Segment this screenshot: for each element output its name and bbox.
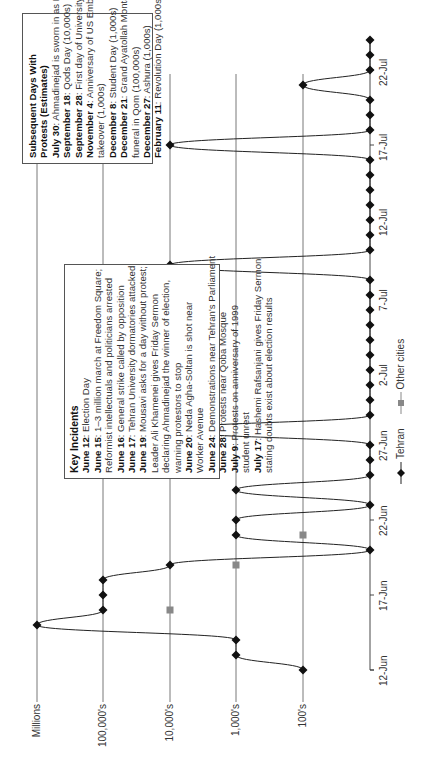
- key-incident-text: : Election Day: [80, 378, 91, 437]
- key-incidents-title: Key Incidents: [69, 270, 80, 473]
- tehran-data-point: [232, 486, 241, 495]
- key-incident-date: July 9: [229, 446, 240, 473]
- tehran-data-point: [366, 156, 375, 165]
- key-incident-date: June 20: [183, 437, 194, 473]
- key-incident-line: June 15: 1–3 million march at Freedom Sq…: [92, 270, 103, 473]
- legend-label-tehran: Tehran: [395, 428, 406, 459]
- other-cities-data-point: [300, 532, 307, 539]
- tehran-data-point: [366, 246, 375, 255]
- x-label-17-jul: 17-Jul: [378, 134, 389, 161]
- key-incident-line: June 16: General strike called by opposi…: [115, 270, 126, 473]
- x-label-7-jul: 7-Jul: [378, 289, 389, 311]
- tehran-data-point: [366, 276, 375, 285]
- key-incident-text: Worker Avenue: [194, 408, 205, 473]
- key-incident-date: June 28: [217, 437, 228, 473]
- other-cities-data-point: [167, 607, 174, 614]
- key-incident-text: : 1–3 million march at Freedom Square;: [92, 269, 103, 438]
- subsequent-day-text: funeral in Qom (100,000s): [130, 47, 141, 158]
- tehran-data-point: [299, 81, 308, 90]
- tehran-data-point: [232, 516, 241, 525]
- key-incidents-box: Key Incidents June 12: Election DayJune …: [64, 264, 220, 479]
- tehran-data-point: [366, 456, 375, 465]
- key-incident-text: : Tehran University dormatories attacked: [126, 266, 137, 438]
- key-incident-line: warning protestors to stop: [172, 270, 183, 473]
- tehran-data-point: [166, 561, 175, 570]
- key-incident-line: July 17: Hashemi Rafsanjani gives Friday…: [252, 270, 263, 473]
- key-incident-text: student unrest: [240, 412, 251, 473]
- subsequent-day-line: funeral in Qom (100,000s): [130, 19, 141, 158]
- x-label-12-jun: 12-Jun: [378, 655, 389, 686]
- tehran-data-point: [366, 471, 375, 480]
- key-incident-line: Reformist intellectuals and politicians …: [103, 270, 114, 473]
- tehran-data-point: [366, 411, 375, 420]
- tehran-data-point: [366, 186, 375, 195]
- tehran-data-point: [366, 396, 375, 405]
- subsequent-day-line: September 18: Qods Day (10,000s): [61, 19, 72, 158]
- tehran-data-point: [366, 66, 375, 75]
- key-incident-text: Reformist intellectuals and politicians …: [103, 278, 114, 473]
- subsequent-day-date: September 18: [61, 95, 72, 158]
- legend-item-other-cities: Other cities: [395, 339, 406, 415]
- key-incident-text: : Hashemi Rafsanjani gives Friday Sermon: [252, 259, 263, 441]
- key-incident-date: June 16: [115, 437, 126, 473]
- key-incident-line: July 9: Protests on anniversary of 1999: [229, 270, 240, 473]
- tehran-data-point: [232, 531, 241, 540]
- tehran-data-point: [99, 606, 108, 615]
- subsequent-day-line: December 21: Grand Ayatollah Montazeri's: [118, 19, 129, 158]
- key-incident-text: warning protestors to stop: [172, 363, 183, 473]
- key-incident-line: student unrest: [240, 270, 251, 473]
- legend: Tehran Other cities: [395, 339, 406, 484]
- y-label-100s: 100's: [297, 704, 308, 764]
- tehran-data-point: [366, 366, 375, 375]
- tehran-data-point: [166, 141, 175, 150]
- tehran-data-point: [366, 96, 375, 105]
- x-label-27-jun: 27-Jun: [378, 430, 389, 461]
- key-incident-line: June 20: Neda Agha-Soltan is shot near: [183, 270, 194, 473]
- tehran-data-point: [366, 111, 375, 120]
- tehran-data-point: [366, 201, 375, 210]
- subsequent-day-text: : Qods Day (10,000s): [61, 4, 72, 95]
- tehran-data-point: [232, 636, 241, 645]
- key-incident-line: June 24: Demonstrations near Tehran's Pa…: [206, 270, 217, 473]
- subsequent-day-date: February 11: [152, 104, 163, 158]
- subsequent-days-title: Subsequent Days With Protests (Estimates…: [27, 19, 50, 158]
- tehran-data-point: [366, 321, 375, 330]
- key-incident-line: June 17: Tehran University dormatories a…: [126, 270, 137, 473]
- subsequent-day-text: : Ashura (1,000s): [141, 25, 152, 98]
- diamond-marker-icon: [396, 462, 406, 484]
- tehran-data-point: [366, 36, 375, 45]
- key-incident-line: June 19: Mousavi asks for a day without …: [137, 270, 148, 473]
- tehran-data-point: [99, 591, 108, 600]
- tehran-data-point: [366, 336, 375, 345]
- key-incident-text: Leader Ali Khamenei gives Friday Sermon: [149, 294, 160, 473]
- y-label-100000s: 100,000's: [97, 704, 108, 764]
- y-label-millions: Millions: [31, 704, 42, 764]
- subsequent-day-date: July 30: [50, 125, 61, 158]
- x-label-12-jul: 12-Jul: [378, 209, 389, 236]
- subsequent-day-date: December 27: [141, 98, 152, 158]
- subsequent-day-line: November 4: Anniversary of US Embassy: [84, 19, 95, 158]
- protest-chart: Millions 100,000's 10,000's 1,000's 100'…: [0, 0, 427, 764]
- y-label-1000s: 1,000's: [230, 704, 241, 764]
- key-incident-line: declaring Ahmadinejad the winner of elec…: [160, 270, 171, 473]
- key-incident-line: stating doubts exist about election resu…: [263, 270, 274, 473]
- key-incident-date: June 19: [137, 437, 148, 473]
- key-incident-date: June 12: [80, 437, 91, 473]
- tehran-data-point: [33, 621, 42, 630]
- key-incident-line: Leader Ali Khamenei gives Friday Sermon: [149, 270, 160, 473]
- legend-item-tehran: Tehran: [395, 428, 406, 484]
- x-label-17-jun: 17-Jun: [378, 580, 389, 611]
- subsequent-day-line: September 28: First day of University (1…: [73, 19, 84, 158]
- tehran-data-point: [366, 216, 375, 225]
- tehran-data-point: [299, 666, 308, 675]
- tehran-data-point: [99, 576, 108, 585]
- subsequent-day-date: December 8: [107, 104, 118, 158]
- key-incident-date: June 24: [206, 437, 217, 473]
- key-incident-line: June 28: Protests near Qoba Mosque: [217, 270, 228, 473]
- key-incident-date: June 17: [126, 437, 137, 473]
- subsequent-days-box: Subsequent Days With Protests (Estimates…: [22, 13, 153, 164]
- x-label-2-jul: 2-Jul: [378, 364, 389, 386]
- tehran-data-point: [366, 306, 375, 315]
- subsequent-day-line: July 30: Ahmadinejad is sworn in as Pres…: [50, 19, 61, 158]
- tehran-data-point: [366, 231, 375, 240]
